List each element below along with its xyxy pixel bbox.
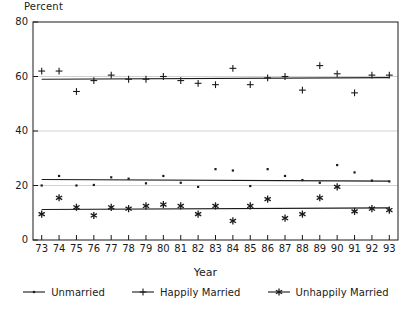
chart-figure <box>0 0 411 309</box>
marker-dot <box>267 168 269 170</box>
marker-dot <box>110 176 112 178</box>
marker-dot <box>301 179 303 181</box>
y-tick-label: 20 <box>6 180 28 191</box>
marker-dot <box>41 184 43 186</box>
marker-dot <box>127 178 129 180</box>
y-tick-label: 60 <box>6 71 28 82</box>
marker-dot <box>197 186 199 188</box>
marker-dot <box>33 291 35 293</box>
x-axis-label: Year <box>0 266 411 279</box>
marker-dot <box>93 184 95 186</box>
y-axis-label: Percent <box>24 1 63 12</box>
legend-marker-asterisk-icon <box>267 286 291 298</box>
marker-dot <box>162 175 164 177</box>
y-tick-label: 40 <box>6 125 28 136</box>
marker-dot <box>353 171 355 173</box>
marker-dot <box>58 175 60 177</box>
marker-dot <box>145 182 147 184</box>
chart-background <box>0 0 411 309</box>
marker-dot <box>75 184 77 186</box>
legend-item-unhappily-married[interactable]: Unhappily Married <box>267 286 389 298</box>
x-tick-label: 93 <box>376 243 402 254</box>
marker-dot <box>214 168 216 170</box>
legend-label: Happily Married <box>160 287 241 298</box>
y-tick-label: 80 <box>6 16 28 27</box>
y-tick-label: 0 <box>6 234 28 245</box>
marker-dot <box>371 179 373 181</box>
marker-dot <box>336 164 338 166</box>
chart-legend: UnmarriedHappily MarriedUnhappily Marrie… <box>0 286 411 298</box>
legend-marker-dot-icon <box>22 286 46 298</box>
legend-marker-plus-icon <box>131 286 155 298</box>
marker-dot <box>232 169 234 171</box>
marker-dot <box>180 182 182 184</box>
legend-label: Unhappily Married <box>296 287 389 298</box>
legend-label: Unmarried <box>51 287 105 298</box>
marker-dot <box>319 182 321 184</box>
marker-dot <box>284 175 286 177</box>
legend-item-unmarried[interactable]: Unmarried <box>22 286 105 298</box>
marker-dot <box>388 180 390 182</box>
marker-dot <box>249 185 251 187</box>
legend-item-happily-married[interactable]: Happily Married <box>131 286 241 298</box>
